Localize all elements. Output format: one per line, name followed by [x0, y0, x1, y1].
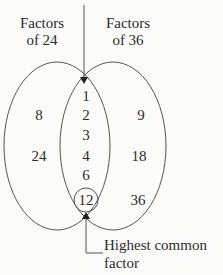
callout-label: Highest common factor: [104, 236, 207, 272]
highest-common-factor-value: 12: [74, 192, 98, 208]
intersection-value: 2: [74, 107, 98, 123]
callout-line: [86, 219, 103, 253]
intersection-value: 1: [74, 88, 98, 104]
left-only-value: 8: [27, 107, 51, 123]
set-left-label-line1: Factors: [8, 15, 76, 32]
set-left-label: Factors of 24: [8, 15, 76, 49]
venn-diagram: Factors of 24 Factors of 36 8 24 1 2 3 4…: [0, 0, 223, 275]
intersection-value: 6: [74, 167, 98, 183]
set-right-label-line1: Factors: [94, 15, 162, 32]
intersection-value: 3: [74, 127, 98, 143]
set-left-label-line2: of 24: [8, 32, 76, 49]
right-only-value: 9: [129, 107, 153, 123]
set-right-label: Factors of 36: [94, 15, 162, 49]
set-right-label-line2: of 36: [94, 32, 162, 49]
intersection-value: 4: [74, 148, 98, 164]
right-only-value: 36: [126, 192, 150, 208]
left-only-value: 24: [27, 148, 51, 164]
top-arrow-icon: [80, 77, 88, 84]
right-only-value: 18: [127, 148, 151, 164]
callout-line1: Highest common: [104, 236, 207, 254]
callout-line2: factor: [104, 254, 207, 272]
